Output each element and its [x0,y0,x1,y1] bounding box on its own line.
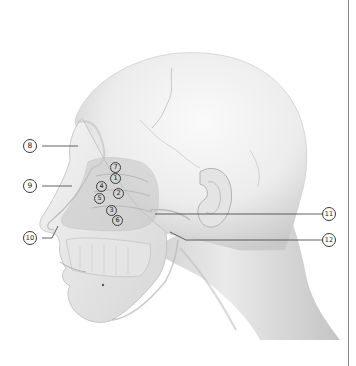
label-5: 5 [94,193,105,204]
label-8: 8 [23,139,37,153]
label-2: 2 [113,188,124,199]
page-border-rule [348,0,349,366]
label-9: 9 [23,179,37,193]
label-1: 1 [110,173,121,184]
label-10: 10 [23,231,37,245]
label-12: 12 [322,233,336,247]
anatomy-figure: 7 1 4 2 5 3 6 8 9 10 11 12 [0,0,356,366]
label-7: 7 [110,162,121,173]
label-4: 4 [96,181,107,192]
head-illustration [0,0,356,366]
label-11: 11 [322,207,336,221]
label-6: 6 [112,215,123,226]
